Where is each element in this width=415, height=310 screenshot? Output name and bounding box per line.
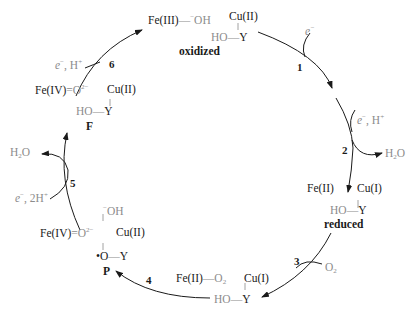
- reduced-tyr: HO—Y: [330, 205, 366, 217]
- P-tyr: •O—Y: [96, 251, 128, 263]
- state-label-P: P: [103, 266, 110, 278]
- step-number-6: 6: [109, 59, 115, 70]
- F-fe: Fe(IV)=O2−: [35, 84, 89, 97]
- arrow-step-1: [258, 32, 332, 88]
- P-fe: Fe(IV)=O2−: [40, 227, 94, 240]
- input-step-2: e−, H+: [357, 114, 384, 127]
- step-number-2: 2: [342, 145, 348, 156]
- state-label-reduced: reduced: [324, 219, 363, 231]
- step-number-4: 4: [146, 275, 152, 286]
- reduced-fe: Fe(II): [307, 183, 334, 195]
- oxidized-cu: Cu(II): [229, 11, 258, 23]
- oxy-fe: Fe(II)—O2: [176, 273, 226, 286]
- P-cu: Cu(II): [116, 227, 145, 239]
- oxidized-tyr: HO—Y: [211, 32, 247, 44]
- F-tyr: HO—Y: [76, 106, 112, 118]
- P-cu-ligand: −OH: [103, 205, 124, 218]
- input-step-5: e−, 2H+: [15, 192, 48, 205]
- oxy-cu: Cu(I): [244, 273, 269, 285]
- input-step-6: e−, H+: [55, 59, 82, 72]
- arrow-step-2: [348, 148, 353, 192]
- input-step-1: e−: [305, 25, 315, 38]
- state-label-F: F: [86, 121, 93, 133]
- oxidized-fe: Fe(III)—−OH: [148, 14, 211, 27]
- input-arrow-step-2: [351, 110, 355, 132]
- oxy-tyr: HO—Y: [214, 294, 250, 306]
- step-number-3: 3: [294, 256, 300, 267]
- input-step-3: O2: [325, 262, 337, 275]
- step-number-1: 1: [297, 62, 303, 73]
- step-number-5: 5: [70, 178, 76, 189]
- reduced-cu: Cu(I): [357, 183, 382, 195]
- output-step-5: H2O: [10, 147, 30, 160]
- output-step-2: H2O: [385, 148, 405, 161]
- output-arrow-step-2: [352, 140, 382, 155]
- F-cu: Cu(II): [107, 84, 136, 96]
- state-label-oxidized: oxidized: [179, 46, 220, 58]
